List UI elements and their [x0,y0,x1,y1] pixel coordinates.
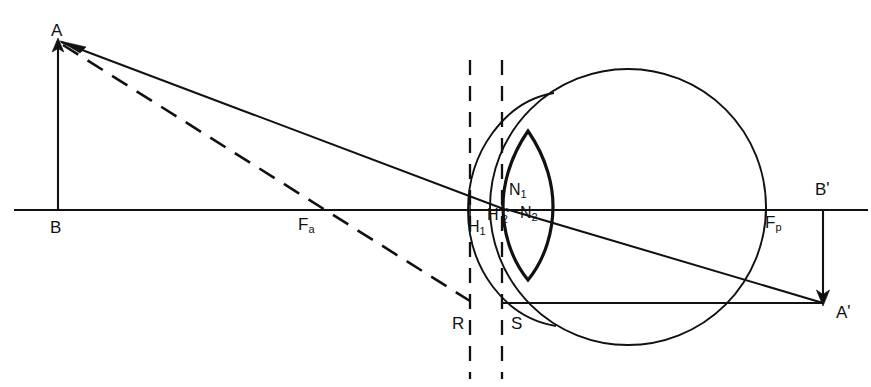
subscript-p: p [775,221,781,233]
label-anterior-focal-point-Fa: Fa [298,216,315,235]
label-image-top-A-prime: A' [836,303,851,321]
label-point-S: S [511,315,522,332]
label-nodal-point-N1: N1 [509,182,527,200]
label-principal-point-H2-prime: H'2 [487,205,508,225]
prime-mark: ' [826,179,829,198]
diagram-canvas [0,0,871,387]
label-principal-point-H1: H1 [468,219,486,237]
label-object-top-A: A [51,22,62,39]
label-nodal-point-N2: N2 [520,205,538,223]
label-image-base-B-prime: B' [815,180,830,198]
label-posterior-focal-point-Fp: Fp [765,214,782,233]
label-point-R: R [452,315,464,332]
optics-diagram: A B Fa H1 H'2 N1 N2 Fp B' A' R S [0,0,871,387]
subscript-a: a [308,223,314,235]
subscript-1: 1 [480,225,486,237]
label-object-base-B: B [50,219,61,236]
subscript-1: 1 [521,188,527,200]
subscript-2: 2 [532,211,538,223]
subscript-2: 2 [502,213,508,225]
prime-mark: ' [847,302,850,321]
